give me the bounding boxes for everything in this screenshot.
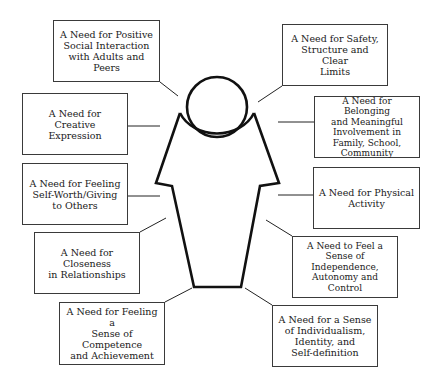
need-label: A Need for Positive Social Interaction w…	[60, 29, 153, 73]
needs-diagram: A Need for Positive Social Interaction w…	[0, 0, 441, 386]
connector-closeness	[140, 218, 166, 232]
connector-individualism	[245, 288, 272, 305]
need-box-positive-social-interaction: A Need for Positive Social Interaction w…	[53, 20, 160, 82]
body-outline	[156, 113, 279, 287]
need-box-physical-activity: A Need for Physical Activity	[313, 167, 420, 229]
need-label: A Need for Physical Activity	[319, 187, 414, 209]
person-figure	[156, 77, 279, 287]
need-label: A Need for Feeling a Sense of Competence…	[64, 306, 160, 361]
need-box-safety-structure: A Need for Safety, Structure and Clear L…	[282, 24, 388, 86]
need-label: A Need for Belonging and Meaningful Invo…	[319, 96, 415, 159]
connectors	[128, 82, 314, 305]
connector-safety-structure	[258, 86, 282, 102]
need-label: A Need for Safety, Structure and Clear L…	[287, 33, 383, 77]
connector-independence	[266, 220, 292, 236]
connector-competence	[165, 288, 192, 302]
connector-positive-social-interaction	[160, 82, 178, 96]
need-box-self-worth: A Need for Feeling Self-Worth/Giving to …	[22, 163, 128, 225]
need-box-competence: A Need for Feeling a Sense of Competence…	[59, 302, 165, 365]
need-box-independence: A Need to Feel a Sense of Independence, …	[292, 236, 398, 298]
need-label: A Need to Feel a Sense of Independence, …	[307, 241, 383, 294]
need-label: A Need for Feeling Self-Worth/Giving to …	[30, 178, 121, 211]
need-box-creative-expression: A Need for Creative Expression	[22, 93, 128, 155]
need-box-individualism: A Need for a Sense of Individualism, Ide…	[272, 305, 378, 367]
need-label: A Need for Creative Expression	[27, 108, 123, 141]
need-box-belonging: A Need for Belonging and Meaningful Invo…	[314, 96, 420, 158]
need-box-closeness: A Need for Closeness in Relationships	[34, 232, 140, 294]
need-label: A Need for Closeness in Relationships	[39, 247, 135, 280]
need-label: A Need for a Sense of Individualism, Ide…	[279, 314, 372, 358]
